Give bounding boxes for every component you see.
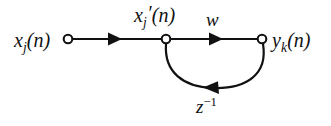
- input-edge-arrowhead-icon: [108, 33, 122, 46]
- weight-label: w: [206, 10, 219, 29]
- output-node[interactable]: [258, 35, 267, 44]
- unit-delay-operator-label: z−1: [196, 96, 217, 116]
- input-signal-base: x: [14, 29, 23, 51]
- intermediate-signal-base: x: [134, 4, 143, 26]
- feedback-edge-arrowhead-icon: [203, 81, 219, 94]
- feedback-edge: [166, 44, 264, 94]
- input-edge: [73, 33, 162, 46]
- feedback-edge-arc: [166, 44, 264, 88]
- signal-flow-graph-figure: xj(n) xj′(n) w yk(n) z−1: [0, 0, 331, 126]
- input-node[interactable]: [64, 35, 73, 44]
- weight-edge-arrowhead-icon: [209, 33, 223, 46]
- output-signal-label: yk(n): [272, 30, 310, 54]
- input-signal-argument: (n): [27, 29, 50, 51]
- intermediate-node[interactable]: [162, 35, 171, 44]
- intermediate-signal-argument: (n): [152, 4, 175, 26]
- input-signal-label: xj(n): [14, 30, 50, 54]
- output-signal-argument: (n): [287, 29, 310, 51]
- weight-edge: [171, 33, 258, 46]
- unit-delay-superscript: −1: [203, 95, 216, 109]
- intermediate-signal-label: xj′(n): [134, 3, 175, 29]
- output-signal-base: y: [272, 29, 281, 51]
